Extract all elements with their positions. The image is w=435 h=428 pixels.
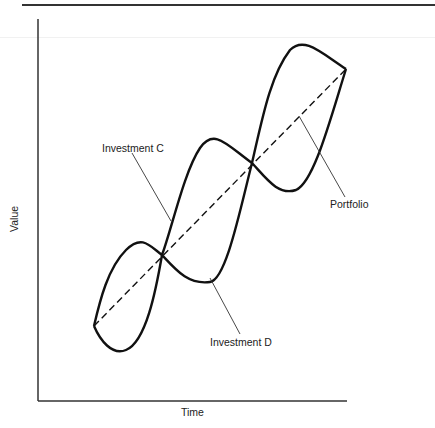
portfolio-leader — [299, 116, 345, 197]
portfolio-label: Portfolio — [330, 198, 369, 210]
chart-plot — [0, 0, 435, 428]
x-axis-label: Time — [181, 406, 204, 418]
investment-c-label: Investment C — [102, 142, 164, 154]
y-axis-label: Value — [8, 206, 20, 232]
investment-c-leader — [132, 153, 171, 221]
investment-d-leader — [210, 278, 240, 334]
investment-d-line — [94, 69, 346, 351]
portfolio-line — [94, 69, 346, 326]
investment-d-label: Investment D — [210, 336, 272, 348]
investment-c-line — [94, 45, 346, 326]
